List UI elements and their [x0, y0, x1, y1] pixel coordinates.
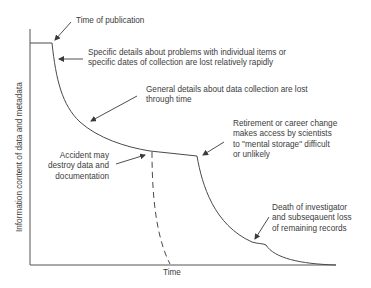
annotation-line: Death of investigator [272, 203, 352, 213]
annotation-line: destroy data and [44, 161, 109, 171]
annotation-line: or unlikely [233, 150, 337, 160]
arrow-general-details [91, 96, 137, 121]
annotation-retirement: Retirement or career change makes access… [233, 119, 337, 161]
annotation-line: Time of publication [76, 16, 144, 26]
annotation-general-details: General details about data collection ar… [146, 85, 308, 106]
accident-dashed-curve [152, 152, 170, 264]
annotation-line: through time [146, 95, 308, 105]
arrow-publication [55, 22, 71, 40]
annotation-line: specific dates of collection are lost re… [88, 58, 286, 68]
x-axis-label: Time [163, 268, 181, 278]
annotation-line: Specific details about problems with ind… [88, 48, 286, 58]
annotation-line: of remaining records [272, 224, 352, 234]
annotation-line: General details about data collection ar… [146, 85, 308, 95]
annotation-publication: Time of publication [76, 16, 144, 26]
annotation-accident: Accident may destroy data and documentat… [44, 151, 109, 182]
arrow-retirement [203, 142, 224, 155]
arrow-death [255, 217, 269, 239]
annotation-line: and subseqauent loss [272, 213, 352, 223]
annotation-death: Death of investigator and subseqauent lo… [272, 203, 352, 234]
annotation-line: makes access by scientists [233, 129, 337, 139]
annotation-line: Retirement or career change [233, 119, 337, 129]
annotation-line: documentation [44, 172, 109, 182]
annotation-specific-details: Specific details about problems with ind… [88, 48, 286, 69]
annotation-line: to "mental storage" difficult [233, 140, 337, 150]
y-axis-label: Information content of data and metadata [15, 82, 24, 232]
arrow-accident [116, 155, 145, 164]
annotation-line: Accident may [44, 151, 109, 161]
